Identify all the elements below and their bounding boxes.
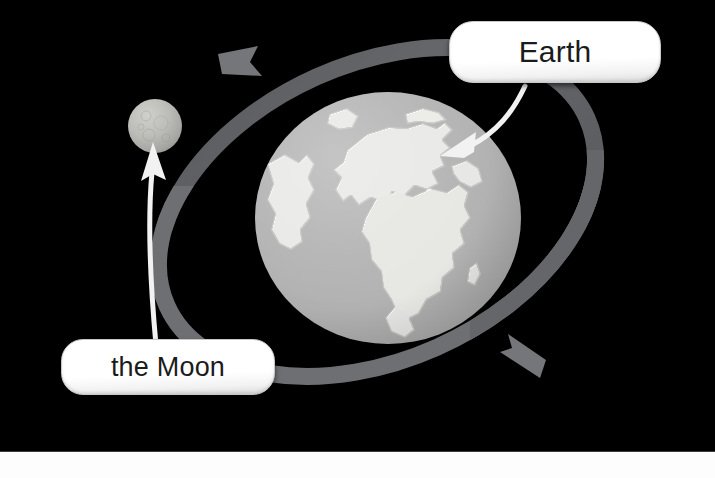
moon-leader-line	[150, 172, 156, 345]
callout-moon-label: the Moon	[111, 354, 225, 381]
bottom-white-strip	[0, 451, 715, 478]
orbit-arrow-bottom-icon	[500, 334, 546, 378]
earth-globe-icon	[255, 92, 521, 344]
moon-craters	[128, 99, 182, 153]
earth-terminator-shading	[255, 92, 521, 344]
callout-earth[interactable]: Earth	[449, 21, 661, 83]
moon-sphere-icon	[128, 99, 182, 153]
space-background: Earth the Moon	[0, 0, 715, 451]
callout-earth-label: Earth	[519, 37, 592, 67]
orbit-arrow-top-icon	[218, 46, 262, 76]
callout-moon[interactable]: the Moon	[61, 339, 275, 395]
diagram-stage: Earth the Moon	[0, 0, 715, 478]
